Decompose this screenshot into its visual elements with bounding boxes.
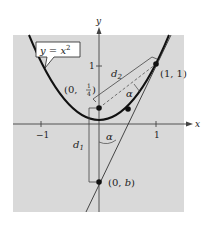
y-axis-label: y xyxy=(95,16,102,26)
y-tick-label-1: 1 xyxy=(89,61,95,71)
intercept-label: (0, b) xyxy=(108,177,135,188)
tangent-point-label: (1, 1) xyxy=(160,68,187,79)
x-tick-label-neg1: −1 xyxy=(36,130,49,140)
alpha-lower-label: α xyxy=(106,131,113,142)
svg-text:(0,: (0, xyxy=(64,84,77,95)
focus-point xyxy=(96,105,102,111)
parabola-reflection-diagram: x y −1 1 1 d2 d1 α α (1, 1) (0, b) (0, 1… xyxy=(0,0,213,227)
focus-fraction-num: 1 xyxy=(87,82,91,89)
alpha-upper-label: α xyxy=(126,88,133,99)
tangent-point xyxy=(153,61,159,67)
intercept-point xyxy=(96,179,102,185)
x-axis-arrow-icon xyxy=(186,122,193,127)
focus-fraction-den: 4 xyxy=(87,90,91,97)
equation-label: y = x2 xyxy=(39,44,71,56)
x-axis-label: x xyxy=(195,119,200,129)
svg-text:): ) xyxy=(92,84,96,95)
parabola-point xyxy=(125,106,131,112)
x-tick-label-1: 1 xyxy=(154,130,160,140)
y-axis-arrow-icon xyxy=(97,27,102,34)
